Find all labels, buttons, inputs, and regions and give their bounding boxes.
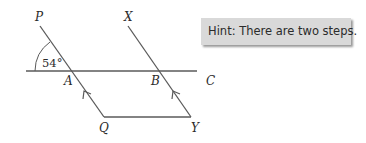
label-b: B [150, 74, 160, 88]
label-y: Y [191, 121, 200, 135]
label-a: A [63, 74, 73, 88]
angle-label: 54° [42, 56, 62, 70]
hint-box: Hint: There are two steps. [201, 18, 351, 45]
label-q: Q [99, 121, 109, 135]
label-x: X [123, 10, 133, 24]
label-c: C [206, 74, 215, 88]
label-p: P [34, 10, 44, 24]
